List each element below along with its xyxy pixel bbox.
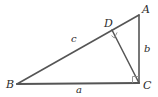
- vertex-label-b: B: [6, 79, 14, 90]
- vertex-label-c: C: [143, 80, 151, 91]
- side-label-a: a: [76, 85, 82, 95]
- vertex-label-a: A: [142, 4, 150, 15]
- segment-BA: [17, 15, 139, 84]
- side-label-b: b: [144, 44, 150, 54]
- geometry-canvas: [0, 0, 158, 97]
- geometry-figure: A B C D a b c: [0, 0, 158, 97]
- vertex-label-d: D: [104, 18, 113, 29]
- segment-DC: [112, 30, 139, 83]
- side-label-c: c: [71, 34, 77, 44]
